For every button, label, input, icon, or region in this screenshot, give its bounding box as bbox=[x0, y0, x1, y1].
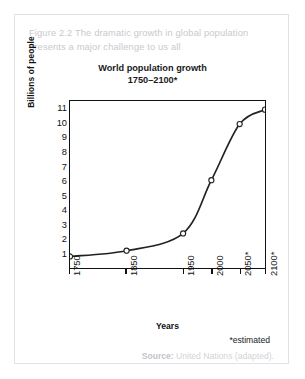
estimated-note: *estimated bbox=[229, 335, 270, 345]
data-point-marker bbox=[237, 121, 242, 126]
x-tick-mark bbox=[211, 269, 212, 274]
x-axis-tick-labels: 17501850195020002050*2100* bbox=[69, 269, 266, 317]
y-tick-label: 1 bbox=[45, 250, 67, 259]
figure-card: Figure 2.2 The dramatic growth in global… bbox=[14, 14, 289, 364]
population-curve bbox=[70, 110, 265, 257]
chart-title-line-2: 1750–2100* bbox=[15, 75, 290, 87]
data-point-marker bbox=[124, 248, 129, 253]
x-tick-label: 1850 bbox=[130, 255, 139, 276]
y-tick-label: 6 bbox=[45, 177, 67, 186]
data-point-marker bbox=[262, 107, 265, 112]
x-tick-label: 1950 bbox=[187, 255, 196, 276]
y-axis-tick-labels: 1110987654321 bbox=[41, 100, 67, 269]
x-tick-label: 2100* bbox=[270, 252, 279, 276]
x-tick-mark bbox=[183, 269, 184, 274]
population-line-chart bbox=[70, 101, 265, 268]
x-tick-label: 2000 bbox=[216, 255, 225, 276]
x-axis-title: Years bbox=[69, 321, 266, 331]
y-tick-label: 9 bbox=[45, 133, 67, 142]
x-tick-mark bbox=[240, 269, 241, 274]
y-tick-label: 8 bbox=[45, 148, 67, 157]
y-tick-label: 3 bbox=[45, 221, 67, 230]
x-tick-mark bbox=[265, 269, 266, 274]
y-tick-label: 7 bbox=[45, 163, 67, 172]
y-axis-title: Billions of people bbox=[26, 32, 36, 112]
y-tick-label: 11 bbox=[45, 104, 67, 113]
source-text: United Nations (adapted). bbox=[174, 351, 274, 361]
x-tick-label: 1750 bbox=[73, 255, 82, 276]
figure-caption: Figure 2.2 The dramatic growth in global… bbox=[29, 26, 277, 54]
x-tick-label: 2050* bbox=[244, 252, 253, 276]
y-tick-label: 2 bbox=[45, 235, 67, 244]
plot-area bbox=[69, 100, 266, 269]
chart-title-line-1: World population growth bbox=[15, 63, 290, 75]
data-point-marker bbox=[209, 178, 214, 183]
y-tick-label: 10 bbox=[45, 119, 67, 128]
y-tick-label: 4 bbox=[45, 206, 67, 215]
y-tick-label: 5 bbox=[45, 192, 67, 201]
data-point-marker bbox=[181, 231, 186, 236]
source-label: Source: bbox=[142, 351, 174, 361]
source-line: Source: United Nations (adapted). bbox=[142, 351, 274, 361]
chart-title: World population growth 1750–2100* bbox=[15, 63, 290, 86]
x-tick-mark bbox=[125, 269, 126, 274]
x-tick-mark bbox=[69, 269, 70, 274]
